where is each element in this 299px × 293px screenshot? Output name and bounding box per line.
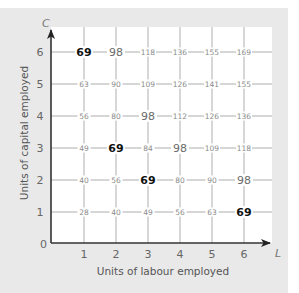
x-axis-letter: L — [275, 247, 281, 260]
cell-value: 28 — [79, 208, 89, 217]
cell-value: 112 — [173, 112, 188, 121]
x-axis-title: Units of labour employed — [97, 265, 229, 277]
cell-value: 56 — [111, 176, 121, 185]
y-tick-label: 3 — [37, 142, 44, 155]
x-tick-label: 2 — [113, 248, 120, 261]
y-axis-letter: C — [42, 17, 50, 30]
tick-labels: 123456123456 — [37, 46, 248, 261]
cell-value: 49 — [143, 208, 153, 217]
cell-value: 155 — [205, 48, 220, 57]
cell-value: 49 — [79, 144, 89, 153]
y-axis-title: Units of capital employed — [18, 66, 30, 200]
cell-value: 109 — [141, 80, 156, 89]
cell-value: 90 — [207, 176, 217, 185]
cell-value: 98 — [141, 110, 155, 123]
x-tick-label: 1 — [81, 248, 88, 261]
cell-value: 136 — [173, 48, 188, 57]
cell-value: 69 — [108, 142, 123, 155]
cell-value: 109 — [205, 144, 220, 153]
y-tick-label: 2 — [37, 174, 44, 187]
cell-value: 118 — [237, 144, 252, 153]
cell-value: 63 — [79, 80, 89, 89]
cell-value: 80 — [175, 176, 185, 185]
cell-value: 155 — [237, 80, 252, 89]
cell-value: 136 — [237, 112, 252, 121]
cell-value: 126 — [205, 112, 220, 121]
y-tick-label: 6 — [37, 46, 44, 59]
x-tick-label: 6 — [241, 248, 248, 261]
cell-values: 6998118136155169639010912614115556809811… — [75, 46, 253, 219]
cell-value: 84 — [143, 144, 153, 153]
y-tick-label: 5 — [37, 78, 44, 91]
cell-value: 118 — [141, 48, 156, 57]
cell-value: 40 — [111, 208, 121, 217]
cell-value: 126 — [173, 80, 188, 89]
origin-label: 0 — [40, 238, 47, 251]
cell-value: 69 — [236, 206, 251, 219]
x-tick-label: 3 — [145, 248, 152, 261]
cell-value: 98 — [109, 46, 123, 59]
cell-value: 69 — [76, 46, 91, 59]
x-tick-label: 5 — [209, 248, 216, 261]
cell-value: 56 — [79, 112, 89, 121]
cell-value: 98 — [237, 174, 251, 187]
cell-value: 80 — [111, 112, 121, 121]
cell-value: 90 — [111, 80, 121, 89]
cell-value: 141 — [205, 80, 220, 89]
cell-value: 40 — [79, 176, 89, 185]
cell-value: 69 — [140, 174, 155, 187]
y-tick-label: 1 — [37, 206, 44, 219]
cell-value: 169 — [237, 48, 252, 57]
y-tick-label: 4 — [37, 110, 44, 123]
cell-value: 56 — [175, 208, 185, 217]
x-tick-label: 4 — [177, 248, 184, 261]
cell-value: 98 — [173, 142, 187, 155]
isoquant-grid-chart: 6998118136155169639010912614115556809811… — [0, 0, 299, 293]
cell-value: 63 — [207, 208, 217, 217]
